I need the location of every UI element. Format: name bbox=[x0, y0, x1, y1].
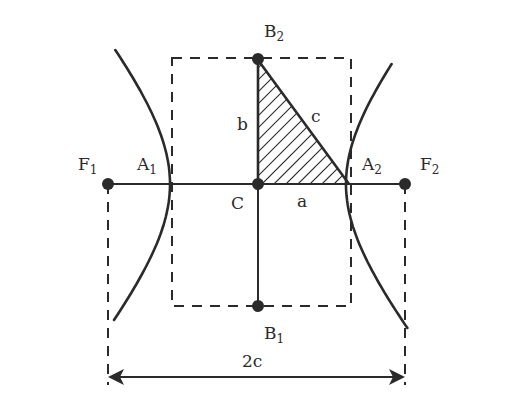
label-a: a bbox=[297, 191, 307, 211]
label-c: c bbox=[311, 106, 321, 126]
focus-f2-point bbox=[399, 178, 411, 190]
vertex-b1-point bbox=[252, 300, 264, 312]
triangle-hatching bbox=[118, 54, 500, 184]
label-b1: B1 bbox=[264, 323, 284, 346]
label-two-c: 2c bbox=[242, 351, 262, 371]
hyperbola-right-branch bbox=[346, 64, 407, 328]
label-f1: F1 bbox=[78, 154, 97, 177]
label-f2: F2 bbox=[420, 154, 439, 177]
center-c-point bbox=[252, 178, 264, 190]
hatch-line bbox=[334, 54, 464, 184]
hatch-line bbox=[154, 54, 284, 184]
hatch-line bbox=[214, 54, 344, 184]
label-a2: A2 bbox=[361, 154, 382, 177]
diagram-canvas: F1 A1 A2 F2 B2 B1 C a b c 2c bbox=[0, 0, 514, 414]
hatch-line bbox=[166, 54, 296, 184]
segment-c bbox=[258, 60, 349, 184]
label-b2: B2 bbox=[264, 21, 284, 44]
vertex-b2-point bbox=[252, 53, 264, 65]
label-b: b bbox=[237, 114, 248, 134]
label-center-c: C bbox=[231, 193, 244, 213]
label-a1: A1 bbox=[136, 154, 157, 177]
hatch-line bbox=[142, 54, 272, 184]
focus-f1-point bbox=[102, 178, 114, 190]
hyperbola-diagram: F1 A1 A2 F2 B2 B1 C a b c 2c bbox=[0, 0, 514, 414]
